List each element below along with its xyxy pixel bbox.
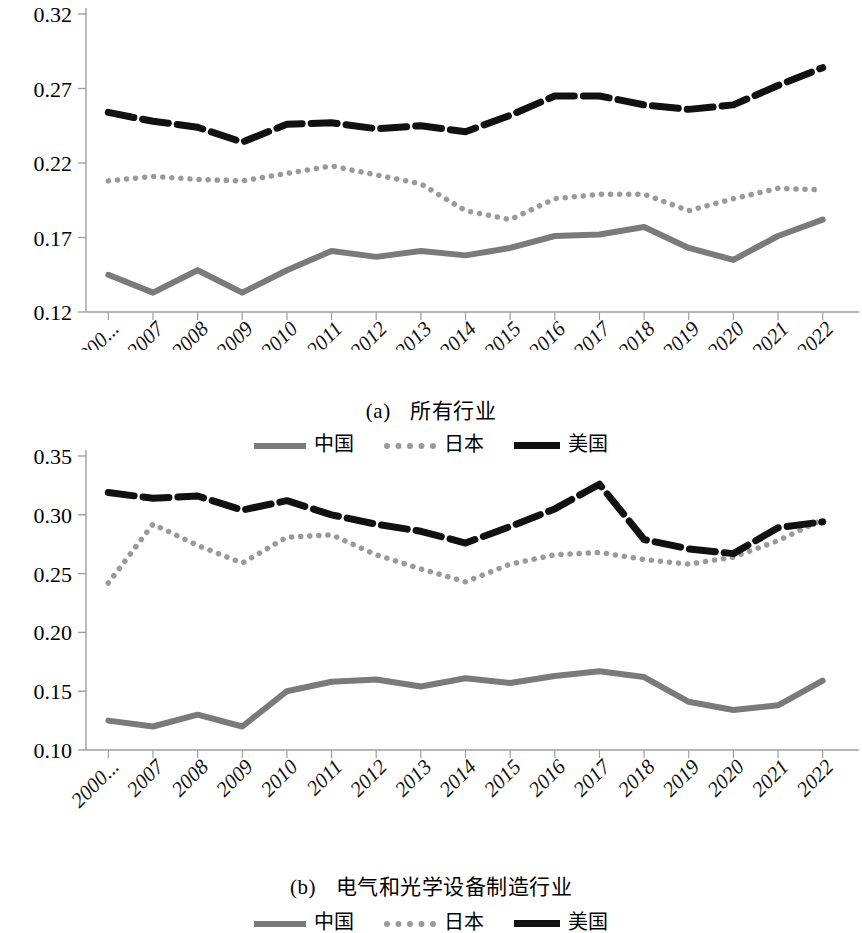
x-axis-tick-label: 2000... xyxy=(66,317,124,350)
x-axis-tick-label: 2022 xyxy=(792,316,839,350)
x-axis-tick-label: 2008 xyxy=(166,316,213,350)
legend-item-usa-b: 美国 xyxy=(514,912,608,932)
x-axis-tick-label: 2018 xyxy=(613,316,660,350)
x-axis-tick-label: 2019 xyxy=(658,316,705,350)
chart-a-plot: 0.120.170.220.270.322000...2007200820092… xyxy=(0,0,862,350)
chart-a-caption: (a) 所有行业 xyxy=(0,394,862,424)
y-axis-tick-label: 0.27 xyxy=(34,77,73,102)
legend-line-dashed-icon xyxy=(514,920,560,927)
x-axis-tick-label: 2013 xyxy=(390,317,437,350)
x-axis-tick-label: 2022 xyxy=(792,754,839,801)
x-axis-tick-label: 2016 xyxy=(524,754,571,801)
chart-b-caption-marker: (b) xyxy=(290,875,316,899)
x-axis-tick-label: 2017 xyxy=(568,316,616,350)
x-axis-tick-label: 2018 xyxy=(613,754,660,801)
x-axis-tick-label: 2021 xyxy=(747,755,794,802)
x-axis-tick-label: 2015 xyxy=(479,755,526,802)
x-axis-tick-label: 2014 xyxy=(434,754,481,801)
series-line-japan xyxy=(108,166,822,220)
x-axis-tick-label: 2019 xyxy=(658,754,705,801)
chart-b-svg: 0.100.150.200.250.300.352000...200720082… xyxy=(0,440,862,830)
legend-label-china-b: 中国 xyxy=(314,912,354,932)
x-axis-tick-label: 2007 xyxy=(122,754,170,802)
x-axis-tick-label: 2017 xyxy=(568,754,616,802)
y-axis-tick-label: 0.30 xyxy=(34,503,73,528)
series-line-china xyxy=(108,671,822,726)
chart-a-caption-marker: (a) xyxy=(366,399,391,423)
x-axis-tick-label: 2007 xyxy=(122,316,170,350)
legend-line-solid-icon xyxy=(254,921,306,927)
legend-item-japan-b: 日本 xyxy=(384,912,484,932)
y-axis-tick-label: 0.32 xyxy=(34,2,73,27)
y-axis-tick-label: 0.12 xyxy=(34,300,73,325)
x-axis-tick-label: 2008 xyxy=(166,754,213,801)
x-axis-tick-label: 2000... xyxy=(66,755,124,813)
chart-b-caption: (b) 电气和光学设备制造行业 xyxy=(0,870,862,900)
x-axis-tick-label: 2020 xyxy=(702,316,749,350)
x-axis-tick-label: 2013 xyxy=(390,755,437,802)
panel-electrical-optical: 0.100.150.200.250.300.352000...200720082… xyxy=(0,440,862,916)
chart-b-plot: 0.100.150.200.250.300.352000...200720082… xyxy=(0,440,862,830)
x-axis-tick-label: 2011 xyxy=(302,317,348,350)
x-axis-tick-label: 2012 xyxy=(345,754,392,801)
y-axis-tick-label: 0.10 xyxy=(34,738,73,763)
series-line-usa xyxy=(108,484,822,553)
chart-a-caption-text: 所有行业 xyxy=(410,399,496,423)
y-axis-tick-label: 0.25 xyxy=(34,562,73,587)
x-axis-tick-label: 2009 xyxy=(211,316,258,350)
y-axis-tick-label: 0.20 xyxy=(34,620,73,645)
legend-label-japan-b: 日本 xyxy=(444,912,484,932)
x-axis-tick-label: 2015 xyxy=(479,317,526,350)
legend-label-usa-b: 美国 xyxy=(568,912,608,932)
x-axis-tick-label: 2014 xyxy=(434,316,481,350)
y-axis-tick-label: 0.15 xyxy=(34,679,73,704)
x-axis-tick-label: 2010 xyxy=(256,754,303,801)
chart-a-svg: 0.120.170.220.270.322000...2007200820092… xyxy=(0,0,862,350)
panel-all-industries: 0.120.170.220.270.322000...2007200820092… xyxy=(0,0,862,440)
x-axis-tick-label: 2009 xyxy=(211,754,258,801)
legend-item-china-b: 中国 xyxy=(254,912,354,932)
x-axis-tick-label: 2010 xyxy=(256,316,303,350)
x-axis-tick-label: 2016 xyxy=(524,316,571,350)
y-axis-tick-label: 0.22 xyxy=(34,151,73,176)
chart-b-caption-text: 电气和光学设备制造行业 xyxy=(336,875,573,899)
y-axis-tick-label: 0.35 xyxy=(34,444,73,469)
series-line-china xyxy=(108,220,822,293)
x-axis-tick-label: 2011 xyxy=(302,755,348,801)
x-axis-tick-label: 2012 xyxy=(345,316,392,350)
legend-line-dotted-icon xyxy=(384,921,436,927)
chart-b-legend: 中国 日本 美国 xyxy=(0,912,862,932)
x-axis-tick-label: 2020 xyxy=(702,754,749,801)
series-line-usa xyxy=(108,68,822,143)
y-axis-tick-label: 0.17 xyxy=(34,226,73,251)
x-axis-tick-label: 2021 xyxy=(747,317,794,350)
